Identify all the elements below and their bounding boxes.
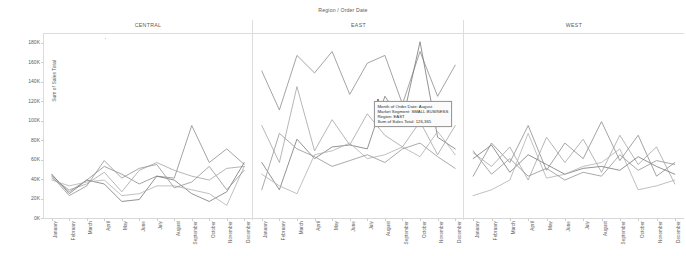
x-axis-tick-label: June xyxy=(351,221,356,231)
x-axis-tick-label: December xyxy=(676,221,681,243)
x-axis-tick-label: April xyxy=(316,221,321,231)
x-axis-tick-label: December xyxy=(246,221,251,243)
x-axis-tick-label: July xyxy=(369,221,374,230)
y-axis-tick-labels: 0K20K40K60K80K100K120K140K160K180K xyxy=(12,0,40,256)
viz-canvas: Region / Order Date Sum of Sales Total 0… xyxy=(0,0,686,256)
plot-area xyxy=(43,33,253,220)
y-axis-tick-label: 80K xyxy=(31,138,40,143)
x-axis-tick-label: June xyxy=(566,221,571,231)
series-line[interactable] xyxy=(52,126,245,192)
x-axis-tick-label: February xyxy=(493,221,498,240)
panel-header: CENTRAL xyxy=(43,22,253,28)
plot-area xyxy=(464,33,684,220)
x-axis-labels: JanuaryFebruaryMarchAprilMayJuneJulyAugu… xyxy=(253,221,464,256)
x-axis-tick-label: August xyxy=(386,221,391,236)
x-axis-tick-label: May xyxy=(548,221,553,230)
panel-central: CENTRAL xyxy=(43,20,253,220)
y-axis-tick-label: 60K xyxy=(31,157,40,162)
x-axis-tick-label: September xyxy=(193,221,198,244)
x-axis-tick-label: January xyxy=(53,221,58,238)
tooltip-value: Sum of Sales Total: 126,365 xyxy=(378,119,449,124)
x-axis-tick-label: August xyxy=(603,221,608,236)
x-axis-labels: JanuaryFebruaryMarchAprilMayJuneJulyAugu… xyxy=(43,221,253,256)
y-axis-tick-label: 0K xyxy=(34,216,40,221)
x-axis-labels: JanuaryFebruaryMarchAprilMayJuneJulyAugu… xyxy=(464,221,684,256)
y-axis-tick-label: 180K xyxy=(28,40,40,45)
x-axis-tick-label: July xyxy=(585,221,590,230)
x-axis-tick-label: July xyxy=(158,221,163,230)
chart-title: Region / Order Date xyxy=(0,7,686,13)
tooltip[interactable]: Month of Order Date: August Market Segme… xyxy=(374,101,452,127)
panel-header: WEST xyxy=(464,22,684,28)
series-line[interactable] xyxy=(52,161,245,196)
panel-west: WEST xyxy=(464,20,684,220)
y-axis-tick-label: 160K xyxy=(28,60,40,65)
x-axis-tick-label: January xyxy=(263,221,268,238)
x-axis-tick-label: September xyxy=(621,221,626,244)
x-axis-tick-label: May xyxy=(123,221,128,230)
x-axis-tick-label: April xyxy=(106,221,111,231)
x-axis-tick-label: September xyxy=(404,221,409,244)
y-axis-tick-label: 120K xyxy=(28,99,40,104)
x-axis-tick-label: April xyxy=(530,221,535,231)
x-axis-tick-label: January xyxy=(475,221,480,238)
y-axis-tick-label: 20K xyxy=(31,196,40,201)
series-line[interactable] xyxy=(262,133,455,189)
panel-header: EAST xyxy=(253,22,464,28)
x-axis-tick-label: October xyxy=(422,221,427,238)
series-line[interactable] xyxy=(52,163,245,202)
panel-divider xyxy=(463,20,464,220)
y-axis-tick-label: 100K xyxy=(28,118,40,123)
x-axis-tick-label: December xyxy=(457,221,462,243)
panel-divider xyxy=(252,20,253,220)
x-axis-tick-label: November xyxy=(228,221,233,243)
y-axis-tick-label: 40K xyxy=(31,177,40,182)
series-line[interactable] xyxy=(262,131,455,193)
x-axis-tick-label: October xyxy=(211,221,216,238)
x-axis-tick-label: November xyxy=(439,221,444,243)
x-axis-tick-label: March xyxy=(511,221,516,234)
y-axis-tick-label: 140K xyxy=(28,79,40,84)
x-axis-tick-label: May xyxy=(334,221,339,230)
x-axis-tick-label: March xyxy=(299,221,304,234)
series-line[interactable] xyxy=(473,135,675,184)
x-axis-tick-label: February xyxy=(71,221,76,240)
x-axis-tick-label: August xyxy=(176,221,181,236)
x-axis-tick-label: March xyxy=(88,221,93,234)
x-axis-tick-label: November xyxy=(658,221,663,243)
x-axis-tick-label: October xyxy=(640,221,645,238)
x-axis-tick-label: June xyxy=(141,221,146,231)
x-axis-tick-label: February xyxy=(281,221,286,240)
series-line[interactable] xyxy=(473,122,675,177)
